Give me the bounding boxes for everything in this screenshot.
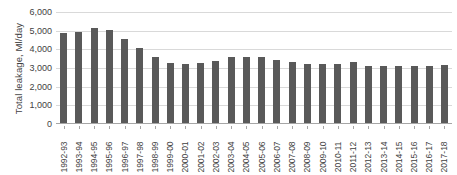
y-tick-label: 4,000 — [18, 44, 52, 54]
bar-slot — [422, 12, 437, 124]
bar-slot — [391, 12, 406, 124]
y-tick-label: 1,000 — [18, 100, 52, 110]
bar-slot — [254, 12, 269, 124]
x-slot: 1996-97 — [117, 124, 132, 175]
bar — [258, 57, 265, 124]
plot-area — [56, 12, 452, 124]
x-tick-mark — [109, 126, 110, 129]
x-slot: 2002-03 — [208, 124, 223, 175]
x-tick-label: 1992-93 — [59, 141, 69, 172]
bar-slot — [193, 12, 208, 124]
bar — [289, 62, 296, 124]
x-slot: 1993-94 — [71, 124, 86, 175]
x-slot: 2011-12 — [345, 124, 360, 175]
bar — [75, 32, 82, 124]
x-tick-label: 2016-17 — [424, 141, 434, 172]
bar — [365, 66, 372, 124]
bar — [350, 62, 357, 124]
bar — [152, 57, 159, 124]
y-tick-label: 3,000 — [18, 63, 52, 73]
x-slot: 2006-07 — [269, 124, 284, 175]
x-slot: 2005-06 — [254, 124, 269, 175]
x-tick-label: 2013-14 — [379, 141, 389, 172]
y-tick-label: 5,000 — [18, 26, 52, 36]
x-tick-mark — [368, 126, 369, 129]
x-slot: 2015-16 — [406, 124, 421, 175]
x-tick-mark — [140, 126, 141, 129]
x-tick-mark — [94, 126, 95, 129]
x-tick-mark — [155, 126, 156, 129]
bar — [136, 48, 143, 124]
bar — [121, 39, 128, 124]
bar-slot — [178, 12, 193, 124]
bar — [304, 64, 311, 124]
x-tick-mark — [429, 126, 430, 129]
bar — [212, 61, 219, 124]
x-tick-mark — [262, 126, 263, 129]
x-tick-mark — [444, 126, 445, 129]
bar — [197, 63, 204, 124]
bar — [411, 66, 418, 124]
x-tick-label: 2003-04 — [226, 141, 236, 172]
x-tick-label: 2008-09 — [302, 141, 312, 172]
x-slot: 2003-04 — [224, 124, 239, 175]
bar — [395, 66, 402, 124]
x-slot: 2004-05 — [239, 124, 254, 175]
x-tick-mark — [216, 126, 217, 129]
x-tick-label: 2000-01 — [180, 141, 190, 172]
x-tick-label: 2007-08 — [287, 141, 297, 172]
x-axis-tick-labels: 1992-931993-941994-951995-961996-971997-… — [56, 124, 452, 175]
bar-series — [56, 12, 452, 124]
bar-slot — [102, 12, 117, 124]
x-slot: 1992-93 — [56, 124, 71, 175]
x-tick-label: 1999-00 — [165, 141, 175, 172]
x-slot: 2008-09 — [300, 124, 315, 175]
x-tick-label: 2014-15 — [394, 141, 404, 172]
bar — [273, 60, 280, 124]
x-tick-mark — [307, 126, 308, 129]
x-tick-label: 2002-03 — [211, 141, 221, 172]
x-tick-mark — [79, 126, 80, 129]
bar-slot — [208, 12, 223, 124]
x-tick-label: 2017-18 — [439, 141, 449, 172]
x-tick-label: 2011-12 — [348, 142, 358, 173]
x-slot: 1998-99 — [147, 124, 162, 175]
bar-slot — [132, 12, 147, 124]
x-tick-label: 2006-07 — [272, 141, 282, 172]
x-tick-mark — [399, 126, 400, 129]
bar-slot — [239, 12, 254, 124]
bar — [334, 64, 341, 124]
y-tick-label: 2,000 — [18, 82, 52, 92]
x-slot: 2017-18 — [437, 124, 452, 175]
leakage-bar-chart: Total leakage, Ml/day 01,0002,0003,0004,… — [0, 0, 457, 175]
x-tick-mark — [201, 126, 202, 129]
bar-slot — [285, 12, 300, 124]
x-tick-mark — [64, 126, 65, 129]
x-tick-label: 2015-16 — [409, 141, 419, 172]
bar-slot — [345, 12, 360, 124]
x-tick-mark — [353, 126, 354, 129]
bar-slot — [361, 12, 376, 124]
bar — [243, 57, 250, 124]
x-tick-mark — [125, 126, 126, 129]
bar — [228, 57, 235, 124]
x-tick-mark — [292, 126, 293, 129]
bar-slot — [269, 12, 284, 124]
x-tick-label: 2005-06 — [257, 141, 267, 172]
x-tick-mark — [170, 126, 171, 129]
x-slot: 2013-14 — [376, 124, 391, 175]
x-slot: 2014-15 — [391, 124, 406, 175]
bar-slot — [163, 12, 178, 124]
bar — [426, 66, 433, 124]
x-tick-mark — [185, 126, 186, 129]
x-slot: 2009-10 — [315, 124, 330, 175]
bar-slot — [300, 12, 315, 124]
bar-slot — [437, 12, 452, 124]
bar-slot — [330, 12, 345, 124]
bar-slot — [376, 12, 391, 124]
x-tick-mark — [231, 126, 232, 129]
x-tick-mark — [246, 126, 247, 129]
x-slot: 1995-96 — [102, 124, 117, 175]
bar-slot — [117, 12, 132, 124]
y-tick-label: 6,000 — [18, 7, 52, 17]
